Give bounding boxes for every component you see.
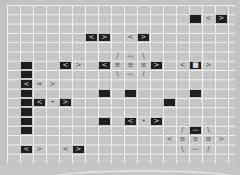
glyph-cell[interactable]: \ <box>202 126 215 135</box>
filled-cell[interactable] <box>98 117 111 126</box>
filled-cell[interactable] <box>124 89 137 98</box>
glyph-cell[interactable]: \ <box>111 70 124 79</box>
filled-cell[interactable]: < <box>20 79 33 88</box>
glyph-cell[interactable]: ≡ <box>202 135 215 144</box>
filled-cell[interactable]: > <box>215 14 228 23</box>
filled-cell[interactable]: > <box>150 61 163 70</box>
glyph-cell[interactable]: ≡ <box>111 61 124 70</box>
filled-cell[interactable]: > <box>72 145 85 154</box>
glyph-cell[interactable]: < <box>59 145 72 154</box>
filled-cell[interactable]: > <box>150 117 163 126</box>
glyph-cell[interactable]: — <box>189 145 202 154</box>
filled-cell[interactable]: ■ <box>189 61 202 70</box>
filled-cell[interactable]: < <box>20 145 33 154</box>
filled-cell[interactable] <box>189 89 202 98</box>
glyph-cell[interactable]: > <box>215 135 228 144</box>
glyph-cell[interactable]: / <box>137 70 150 79</box>
glyph-cell[interactable]: — <box>124 52 137 61</box>
filled-cell[interactable]: < <box>33 98 46 107</box>
filled-cell[interactable] <box>20 89 33 98</box>
filled-cell[interactable]: < <box>59 61 72 70</box>
game-board[interactable]: <><><>/—\<><≡≡≡><■>\—/<=><•><•>/—\<≡≡≡><… <box>7 5 235 163</box>
glyph-cell[interactable]: > <box>72 61 85 70</box>
glyph-cell[interactable]: < <box>163 135 176 144</box>
glyph-cell[interactable]: / <box>202 145 215 154</box>
glyph-cell[interactable]: ≡ <box>124 61 137 70</box>
filled-cell[interactable] <box>20 126 33 135</box>
glyph-cell[interactable]: \ <box>137 52 150 61</box>
filled-cell[interactable]: < <box>85 33 98 42</box>
glyph-cell[interactable]: / <box>111 52 124 61</box>
filled-cell[interactable]: > <box>59 98 72 107</box>
filled-cell[interactable] <box>20 107 33 116</box>
glyph-cell[interactable]: < <box>202 14 215 23</box>
filled-cell[interactable] <box>20 61 33 70</box>
glyph-cell[interactable]: < <box>176 61 189 70</box>
glyph-cell[interactable]: = <box>33 79 46 88</box>
filled-cell[interactable]: > <box>137 33 150 42</box>
filled-cell[interactable] <box>20 117 33 126</box>
glyph-cell[interactable]: ≡ <box>137 61 150 70</box>
glyph-cell[interactable]: • <box>46 98 59 107</box>
filled-cell[interactable] <box>20 70 33 79</box>
glyph-cell[interactable]: / <box>176 126 189 135</box>
glyph-cell[interactable]: > <box>202 61 215 70</box>
filled-cell[interactable]: < <box>124 117 137 126</box>
filled-cell[interactable] <box>20 98 33 107</box>
glyph-cell[interactable]: < <box>124 33 137 42</box>
filled-cell[interactable]: > <box>98 33 111 42</box>
glyph-cell[interactable]: > <box>33 145 46 154</box>
glyph-cell[interactable]: • <box>137 117 150 126</box>
filled-cell[interactable] <box>163 98 176 107</box>
filled-cell[interactable]: < <box>98 61 111 70</box>
filled-cell[interactable] <box>189 14 202 23</box>
glyph-cell[interactable]: > <box>46 79 59 88</box>
glyph-cell[interactable]: \ <box>176 145 189 154</box>
filled-cell[interactable] <box>98 89 111 98</box>
glyph-cell[interactable]: ≡ <box>176 135 189 144</box>
glyph-cell[interactable]: — <box>124 70 137 79</box>
filled-cell[interactable]: — <box>189 126 202 135</box>
glyph-cell[interactable]: ≡ <box>189 135 202 144</box>
